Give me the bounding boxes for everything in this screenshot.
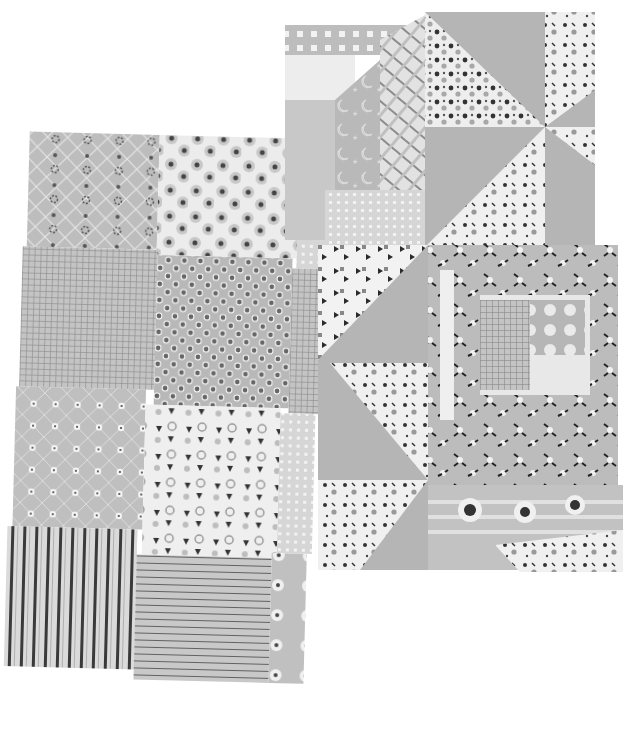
left-fabric-swatch bbox=[4, 131, 330, 684]
right-fabric-swatch bbox=[285, 12, 623, 572]
fabric-swatches-photo: ★ bbox=[0, 0, 640, 746]
